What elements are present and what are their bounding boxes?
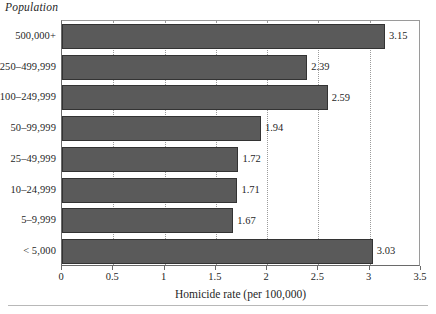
x-axis-tick-label: 0 bbox=[58, 271, 63, 282]
x-axis-tick-label: 2 bbox=[264, 271, 269, 282]
bar-rect[interactable] bbox=[62, 178, 237, 203]
bar-item[interactable]: 3.03 bbox=[62, 236, 419, 267]
bar-rect[interactable] bbox=[62, 147, 238, 172]
bar-rect[interactable] bbox=[62, 208, 233, 233]
bar-item[interactable]: 1.72 bbox=[62, 144, 419, 175]
bar-item[interactable]: 2.59 bbox=[62, 83, 419, 114]
x-axis-title: Homicide rate (per 100,000) bbox=[61, 288, 420, 300]
bar-value-label: 3.03 bbox=[377, 246, 395, 257]
bar-item[interactable]: 1.94 bbox=[62, 113, 419, 144]
bar-value-label: 2.59 bbox=[332, 93, 350, 104]
x-axis-tick bbox=[164, 266, 165, 270]
y-axis-tick-label: 500,000+ bbox=[0, 20, 56, 51]
bar-value-label: 1.72 bbox=[242, 154, 260, 165]
y-axis-tick-label: 5–9,999 bbox=[0, 205, 56, 236]
bar-rect[interactable] bbox=[62, 116, 261, 141]
y-axis-tick-label: 100–249,999 bbox=[0, 82, 56, 113]
homicide-rate-bar-chart: Population 500,000+250–499,999100–249,99… bbox=[0, 0, 436, 314]
x-axis-tick bbox=[61, 266, 62, 270]
bar-item[interactable]: 3.15 bbox=[62, 21, 419, 52]
x-axis-tick bbox=[369, 266, 370, 270]
bar-value-label: 1.71 bbox=[241, 185, 259, 196]
bar-value-label: 2.39 bbox=[311, 62, 329, 73]
x-axis-tick bbox=[266, 266, 267, 270]
y-axis-tick-label: < 5,000 bbox=[0, 235, 56, 266]
x-axis-tick bbox=[112, 266, 113, 270]
bar-rect[interactable] bbox=[62, 85, 328, 110]
bar-value-label: 3.15 bbox=[389, 31, 407, 42]
y-axis-tick-label: 10–24,999 bbox=[0, 174, 56, 205]
bottom-divider bbox=[8, 305, 428, 306]
y-axis-group-title: Population bbox=[5, 1, 58, 13]
y-axis-category-labels: 500,000+250–499,999100–249,99950–99,9992… bbox=[0, 20, 56, 266]
x-axis-tick-label: 0.5 bbox=[106, 271, 119, 282]
x-axis-tick bbox=[420, 266, 421, 270]
bar-value-label: 1.67 bbox=[237, 216, 255, 227]
x-axis-tick-label: 2.5 bbox=[311, 271, 324, 282]
y-axis-tick-label: 250–499,999 bbox=[0, 51, 56, 82]
x-axis-tick bbox=[215, 266, 216, 270]
bar-item[interactable]: 2.39 bbox=[62, 52, 419, 83]
x-axis-tick-label: 1 bbox=[161, 271, 166, 282]
bar-item[interactable]: 1.71 bbox=[62, 175, 419, 206]
bar-series: 3.152.392.591.941.721.711.673.03 bbox=[62, 21, 419, 265]
plot-area: 3.152.392.591.941.721.711.673.03 bbox=[61, 20, 420, 266]
x-axis-tick bbox=[317, 266, 318, 270]
x-axis-tick-label: 3 bbox=[366, 271, 371, 282]
bar-item[interactable]: 1.67 bbox=[62, 206, 419, 237]
bar-rect[interactable] bbox=[62, 239, 373, 264]
y-axis-tick-label: 25–49,999 bbox=[0, 143, 56, 174]
bar-value-label: 1.94 bbox=[265, 123, 283, 134]
bar-rect[interactable] bbox=[62, 24, 385, 49]
bar-rect[interactable] bbox=[62, 55, 307, 80]
x-axis-tick-label: 3.5 bbox=[413, 271, 426, 282]
y-axis-tick-label: 50–99,999 bbox=[0, 112, 56, 143]
x-axis-tick-label: 1.5 bbox=[208, 271, 221, 282]
